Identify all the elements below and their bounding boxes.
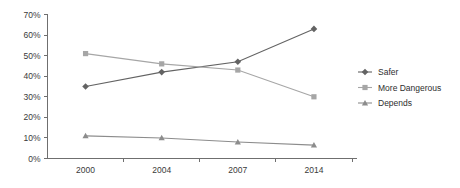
series-layer [82,26,317,148]
legend-label-2[interactable]: Depends [378,98,412,108]
series-line-depends [86,136,314,145]
series-line-more-dangerous [86,54,314,97]
x-tick-label: 2004 [152,165,171,175]
y-tick-label: 60% [23,30,40,40]
data-point-safer-2014 [311,26,318,33]
line-chart: 0%10%20%30%40%50%60%70% 2000200420072014… [0,0,460,188]
data-point-safer-2007 [235,59,242,66]
data-point-safer-2004 [158,69,165,76]
y-tick-label: 20% [23,112,40,122]
data-point-safer-2000 [82,83,89,90]
legend-marker-square-icon [362,85,367,90]
x-axis: 2000200420072014 [48,159,358,175]
chart-legend: SaferMore DangerousDepends [358,67,441,108]
y-tick-label: 40% [23,71,40,81]
y-tick-label: 10% [23,133,40,143]
legend-label-0[interactable]: Safer [378,67,398,77]
y-tick-label: 50% [23,51,40,61]
chart-canvas: 0%10%20%30%40%50%60%70% 2000200420072014… [0,0,460,188]
legend-label-1[interactable]: More Dangerous [378,83,441,93]
legend-marker-diamond-icon [362,69,369,76]
y-tick-label: 30% [23,92,40,102]
x-tick-label: 2014 [304,165,323,175]
data-point-more-dangerous-2014 [311,94,316,99]
x-tick-label: 2007 [228,165,247,175]
y-tick-label: 70% [23,10,40,20]
y-tick-label: 0% [28,154,41,164]
x-tick-label: 2000 [76,165,95,175]
data-point-more-dangerous-2007 [235,67,240,72]
data-point-more-dangerous-2004 [159,61,164,66]
y-axis: 0%10%20%30%40%50%60%70% [23,10,47,164]
data-point-more-dangerous-2000 [83,51,88,56]
